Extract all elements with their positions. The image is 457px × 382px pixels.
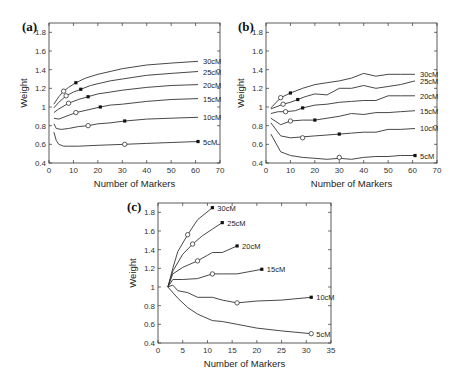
series-label: 5cM (203, 138, 217, 147)
x-tick-label: 10 (69, 166, 78, 175)
x-tick-label: 60 (408, 166, 417, 175)
figure-canvas: 0102030405060700.40.60.811.21.41.61.8Num… (0, 0, 457, 382)
panel-label: (b) (238, 19, 254, 34)
x-tick-label: 30 (335, 166, 344, 175)
open-marker (74, 110, 78, 114)
series-label: 10cM (316, 293, 334, 302)
y-tick-label: 1.6 (252, 47, 264, 56)
open-marker (281, 102, 285, 106)
series-label: 25cM (227, 219, 245, 228)
y-tick-label: 1.6 (35, 47, 47, 56)
x-tick-label: 70 (216, 166, 225, 175)
series-label: 5cM (316, 330, 330, 339)
series-line-25cM (168, 223, 222, 287)
series-label: 30cM (203, 57, 221, 66)
y-tick-label: 1.2 (144, 264, 156, 273)
series-label: 25cM (420, 77, 438, 86)
y-tick-label: 0.6 (252, 140, 264, 149)
series-label: 10cM (203, 113, 221, 122)
filled-marker (196, 140, 199, 143)
x-axis-label: Number of Markers (94, 178, 176, 189)
y-tick-label: 0.4 (252, 159, 264, 168)
panel-label: (c) (127, 199, 141, 214)
filled-marker (260, 268, 263, 271)
y-tick-label: 0.6 (35, 140, 47, 149)
series-line-10cM (54, 117, 198, 129)
x-tick-label: 0 (47, 166, 52, 175)
open-marker (300, 136, 304, 140)
x-tick-label: 15 (228, 346, 237, 355)
y-tick-label: 1 (42, 103, 47, 112)
y-tick-label: 1.2 (252, 84, 264, 93)
x-tick-label: 20 (93, 166, 102, 175)
x-tick-label: 40 (359, 166, 368, 175)
x-tick-label: 10 (203, 346, 212, 355)
x-tick-label: 50 (384, 166, 393, 175)
open-marker (235, 301, 239, 305)
series-line-20cM (54, 85, 198, 113)
y-tick-label: 0.8 (35, 122, 47, 131)
filled-marker (310, 296, 313, 299)
filled-marker (79, 88, 82, 91)
series-label: 15cM (203, 95, 221, 104)
x-tick-label: 20 (252, 346, 261, 355)
x-tick-label: 35 (327, 346, 336, 355)
filled-marker (123, 119, 126, 122)
chart-panel-a: 0102030405060700.40.60.811.21.41.61.8Num… (18, 19, 225, 189)
series-label: 10cM (420, 124, 438, 133)
series-label: 20cM (242, 242, 260, 251)
y-tick-label: 1.6 (144, 227, 156, 236)
y-axis-label: Weight (127, 258, 138, 288)
series-label: 30cM (217, 204, 235, 213)
open-marker (64, 94, 68, 98)
series-line-15cM (168, 269, 262, 287)
y-tick-label: 0.4 (144, 339, 156, 348)
open-marker (190, 242, 194, 246)
panel-label: (a) (22, 19, 37, 34)
chart-panel-c: 051015202530350.40.60.811.21.41.61.8Numb… (127, 199, 336, 369)
filled-marker (338, 132, 341, 135)
y-tick-label: 1.2 (35, 84, 47, 93)
y-tick-label: 0.8 (252, 122, 264, 131)
series-line-20cM (168, 246, 237, 287)
series-label: 15cM (267, 265, 285, 274)
x-tick-label: 70 (433, 166, 442, 175)
filled-marker (301, 106, 304, 109)
y-axis-label: Weight (235, 78, 246, 108)
open-marker (185, 233, 189, 237)
open-marker (66, 101, 70, 105)
filled-marker (296, 98, 299, 101)
filled-marker (221, 221, 224, 224)
series-line-10cM (168, 285, 311, 303)
y-tick-label: 1 (151, 283, 156, 292)
open-marker (288, 119, 292, 123)
series-line-5cM (168, 287, 311, 334)
series-line-25cM (271, 81, 415, 109)
series-label: 20cM (203, 81, 221, 90)
x-tick-label: 20 (310, 166, 319, 175)
series-label: 5cM (420, 152, 434, 161)
filled-marker (99, 105, 102, 108)
y-tick-label: 0.8 (144, 302, 156, 311)
series-line-15cM (271, 111, 415, 125)
filled-marker (86, 95, 89, 98)
x-tick-label: 0 (264, 166, 269, 175)
filled-marker (413, 154, 416, 157)
open-marker (86, 123, 90, 127)
y-tick-label: 1.8 (144, 208, 156, 217)
series-label: 20cM (420, 92, 438, 101)
open-marker (123, 142, 127, 146)
series-line-30cM (271, 73, 415, 108)
filled-marker (289, 91, 292, 94)
x-tick-label: 50 (167, 166, 176, 175)
open-marker (337, 155, 341, 159)
x-tick-label: 25 (277, 346, 286, 355)
filled-marker (235, 244, 238, 247)
y-tick-label: 1.4 (35, 66, 47, 75)
series-label: 25cM (203, 68, 221, 77)
open-marker (210, 272, 214, 276)
x-tick-label: 60 (191, 166, 200, 175)
y-tick-label: 0.4 (35, 159, 47, 168)
x-tick-label: 40 (142, 166, 151, 175)
chart-panel-b: 0102030405060700.40.60.811.21.41.61.8Num… (235, 19, 442, 189)
